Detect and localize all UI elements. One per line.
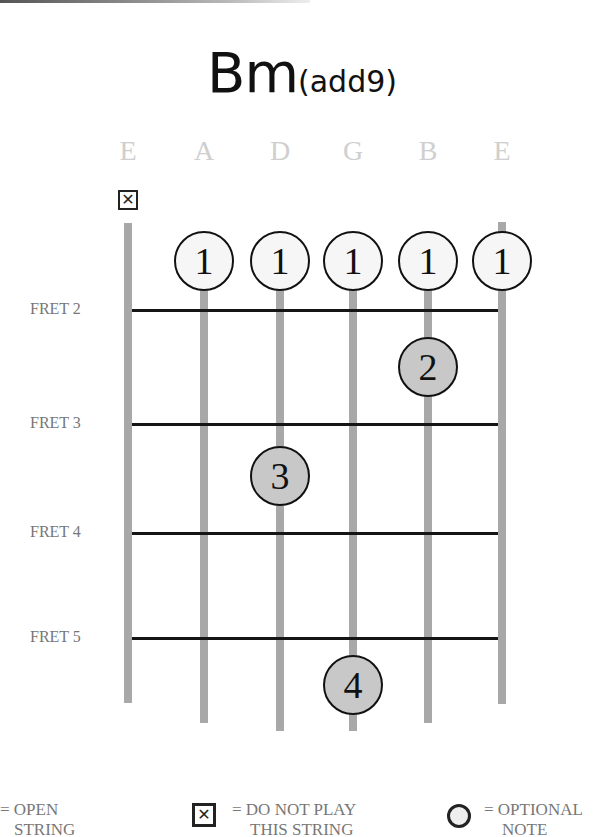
chord-root: Bm <box>207 40 298 105</box>
finger-dot: 1 <box>174 231 234 291</box>
fret-line-2 <box>132 309 498 312</box>
fret-line-4 <box>132 532 498 535</box>
fret-line-3 <box>132 423 498 426</box>
fret-label: FRET 2 <box>30 300 81 318</box>
legend-muted-line1: = DO NOT PLAY <box>232 800 356 820</box>
string-4 <box>424 240 432 723</box>
string-name-5: E <box>482 135 522 167</box>
legend-mute-icon: ✕ <box>192 803 216 827</box>
mute-string-icon: ✕ <box>118 190 138 210</box>
finger-dot: 1 <box>472 231 532 291</box>
string-name-4: B <box>408 135 448 167</box>
fret-label: FRET 5 <box>30 628 81 646</box>
string-name-2: D <box>260 135 300 167</box>
string-name-3: G <box>333 135 373 167</box>
top-rule <box>0 0 310 3</box>
legend-open-line2: STRING <box>0 820 75 837</box>
fret-line-5 <box>132 637 498 640</box>
finger-dot: 1 <box>250 231 310 291</box>
legend-muted-line2: THIS STRING <box>232 820 356 837</box>
fret-label: FRET 4 <box>30 523 81 541</box>
string-name-1: A <box>184 135 224 167</box>
string-name-0: E <box>108 135 148 167</box>
finger-dot: 3 <box>250 446 310 506</box>
chord-extension: (add9) <box>298 64 397 99</box>
legend-open-string: = OPEN STRING <box>0 800 75 837</box>
finger-dot: 1 <box>323 231 383 291</box>
legend-muted-string: = DO NOT PLAY THIS STRING <box>232 800 356 837</box>
legend-optional-circle-icon <box>447 804 471 828</box>
string-0 <box>124 223 132 703</box>
legend-optional-line1: = OPTIONAL <box>484 800 583 820</box>
string-5 <box>498 222 506 704</box>
string-1 <box>200 240 208 723</box>
finger-dot: 1 <box>398 231 458 291</box>
legend-open-line1: = OPEN <box>0 800 75 820</box>
finger-dot: 2 <box>398 337 458 397</box>
finger-dot: 4 <box>323 655 383 715</box>
fret-label: FRET 3 <box>30 414 81 432</box>
legend-optional-note: = OPTIONAL NOTE <box>484 800 583 837</box>
legend-optional-line2: NOTE <box>484 820 583 837</box>
chord-title: Bm(add9) <box>0 40 604 105</box>
